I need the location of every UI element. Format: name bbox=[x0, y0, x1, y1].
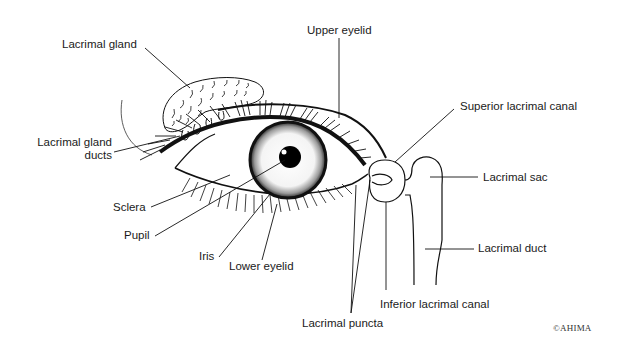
label-lacrimal-gland: Lacrimal gland bbox=[62, 38, 137, 51]
label-sclera: Sclera bbox=[113, 201, 146, 214]
lacrimal-drainage-system bbox=[369, 157, 442, 285]
label-lower-eyelid: Lower eyelid bbox=[229, 260, 294, 273]
eye-anatomy-diagram: Lacrimal gland Upper eyelid Superior lac… bbox=[0, 0, 623, 357]
label-lacrimal-gland-ducts-line1: Lacrimal gland bbox=[33, 136, 112, 149]
label-pupil: Pupil bbox=[124, 229, 150, 242]
label-lacrimal-gland-ducts: Lacrimal gland ducts bbox=[33, 136, 112, 162]
copyright-notice: ©AHIMA bbox=[553, 323, 592, 333]
label-lacrimal-gland-ducts-line2: ducts bbox=[33, 149, 112, 162]
label-lacrimal-puncta: Lacrimal puncta bbox=[302, 317, 383, 330]
pupil-shape bbox=[279, 146, 301, 168]
label-lacrimal-duct: Lacrimal duct bbox=[478, 242, 546, 255]
label-lacrimal-sac: Lacrimal sac bbox=[483, 171, 548, 184]
label-inferior-lacrimal-canal: Inferior lacrimal canal bbox=[380, 298, 489, 311]
label-upper-eyelid: Upper eyelid bbox=[307, 24, 372, 37]
label-iris: Iris bbox=[199, 250, 214, 263]
label-superior-lacrimal-canal: Superior lacrimal canal bbox=[460, 100, 577, 113]
